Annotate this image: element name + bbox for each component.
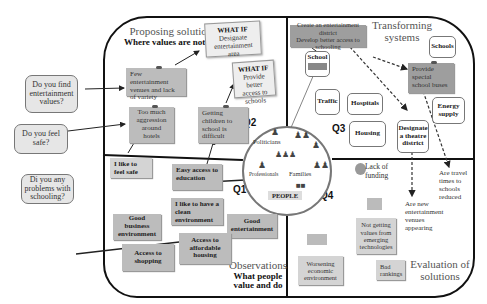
title-transforming-main: Transforming systems bbox=[372, 20, 432, 43]
banner-entertainment-district[interactable]: Create an entertainment district Develop… bbox=[290, 25, 366, 47]
pin-icon bbox=[431, 61, 437, 64]
note-special-school-buses[interactable]: Provide special school buses bbox=[408, 63, 454, 93]
note-easy-access-education[interactable]: Easy access to education bbox=[172, 164, 222, 190]
note-not-getting-values[interactable]: Not getting values from emerging technol… bbox=[356, 218, 396, 254]
title-evaluation-main: Evaluation of solutions bbox=[410, 259, 470, 282]
pin-icon bbox=[156, 66, 162, 69]
question-schooling-problems[interactable]: Di you any problems with schooling? bbox=[21, 174, 74, 204]
technology-image-icon bbox=[367, 198, 382, 210]
eval-new-venues: Are new entertainment venues appearing bbox=[405, 200, 437, 232]
whatif-text: Provide better access to schools bbox=[242, 72, 268, 106]
family-group-icon: ♟♟ bbox=[294, 130, 310, 140]
economy-image-icon bbox=[307, 234, 327, 245]
system-label: School bbox=[308, 54, 328, 62]
note-text: Access to affordable housing bbox=[183, 237, 227, 260]
note-text: Worsening economic environment bbox=[302, 260, 339, 282]
pin-icon bbox=[152, 105, 158, 108]
system-traffic[interactable]: Traffic bbox=[315, 89, 340, 115]
question-feel-safe[interactable]: Do you feel safe? bbox=[14, 124, 68, 154]
banner-line2: Develop better access to schooling bbox=[294, 36, 362, 51]
system-label: Housing bbox=[355, 130, 380, 138]
note-text: Good entertainment bbox=[231, 218, 273, 234]
people-label-professionals: Professionals bbox=[249, 171, 278, 177]
question-entertainment-values[interactable]: Do you find entertainment values? bbox=[25, 75, 78, 113]
question-text: Do you feel safe? bbox=[17, 130, 65, 148]
family-icon: ♟♟ bbox=[313, 160, 329, 170]
note-text: Provide special school buses bbox=[412, 65, 448, 89]
title-evaluation: Evaluation of solutions bbox=[410, 259, 470, 282]
note-text: Getting children to school is difficult bbox=[202, 109, 232, 140]
system-label: Designate a theatre district bbox=[398, 125, 428, 148]
note-text: I like to feel safe bbox=[114, 160, 138, 176]
title-observations-main: Observations bbox=[226, 260, 290, 272]
note-bad-rankings[interactable]: Bad rankings bbox=[376, 260, 405, 280]
note-text: Access to shopping bbox=[126, 250, 170, 266]
politician-icon: ♟ bbox=[271, 127, 279, 137]
question-text: Di you any problems with schooling? bbox=[24, 176, 71, 202]
banner-line1: Create an entertainment district bbox=[294, 21, 362, 36]
people-label-families: Families bbox=[289, 170, 311, 177]
note-text: I like to have a clean environment bbox=[175, 200, 219, 224]
note-text: Bad rankings bbox=[380, 263, 402, 277]
system-schools[interactable]: Schools bbox=[429, 36, 456, 58]
system-energy-supply[interactable]: Energy supply bbox=[432, 97, 465, 124]
whatif-text: Designate entertainment area bbox=[214, 33, 253, 58]
people-label-politicians: Politicians bbox=[253, 138, 280, 145]
note-text: Good business environment bbox=[117, 215, 157, 238]
eval-lack-of-funding: Lack of funding bbox=[365, 163, 393, 180]
note-affordable-housing[interactable]: Access to affordable housing bbox=[179, 233, 231, 264]
note-text: Too much aggression around hotels bbox=[133, 109, 170, 140]
system-label: Energy supply bbox=[433, 103, 464, 118]
note-good-business-environment[interactable]: Good business environment bbox=[113, 214, 161, 240]
note-aggression-hotels[interactable]: Too much aggression around hotels bbox=[129, 107, 174, 143]
professional-icon: ♟ bbox=[258, 160, 266, 170]
note-good-entertainment[interactable]: Good entertainment bbox=[227, 214, 277, 238]
eval-travel-times: Are travel times to schools reduced bbox=[439, 169, 471, 201]
system-theatre-district[interactable]: Designate a theatre district bbox=[397, 120, 429, 153]
note-few-entertainment-venues[interactable]: Few entertainment venues and lack of var… bbox=[126, 68, 186, 96]
whatif-provide-access-schools[interactable]: WHAT IF Provide better access to schools bbox=[232, 60, 276, 99]
people-label: PEOPLE bbox=[268, 191, 302, 200]
system-label: Traffic bbox=[317, 98, 337, 106]
title-observations-sub: What people value and do bbox=[226, 272, 290, 291]
note-access-shopping[interactable]: Access to shopping bbox=[122, 244, 174, 271]
note-worsening-economy[interactable]: Worsening economic environment bbox=[298, 256, 343, 285]
school-image-icon bbox=[308, 63, 327, 70]
system-label: Hospitals bbox=[351, 100, 379, 108]
system-label: Schools bbox=[431, 43, 454, 51]
note-clean-environment[interactable]: I like to have a clean environment bbox=[171, 198, 223, 225]
pin-icon bbox=[223, 105, 229, 108]
person-icon: ♟ bbox=[312, 140, 320, 150]
note-text: Easy access to education bbox=[176, 166, 218, 182]
note-text: Not getting values from emerging technol… bbox=[360, 221, 393, 250]
title-transforming-systems: Transforming systems bbox=[372, 20, 432, 43]
crowd-icon: ♟♟♟ bbox=[275, 150, 296, 159]
note-like-feel-safe[interactable]: I like to feel safe bbox=[110, 158, 152, 178]
system-hospitals[interactable]: Hospitals bbox=[347, 93, 383, 115]
whatif-designate-entertainment[interactable]: WHAT IF Designate entertainment area bbox=[204, 21, 262, 58]
title-observations: Observations What people value and do bbox=[226, 260, 290, 290]
families-group-icon: ■■ bbox=[296, 181, 306, 190]
system-housing[interactable]: Housing bbox=[349, 121, 386, 147]
question-text: Do you find entertainment values? bbox=[28, 81, 75, 107]
note-getting-children-school[interactable]: Getting children to school is difficult bbox=[198, 107, 248, 143]
quadrant-label-q3: Q3 bbox=[332, 123, 345, 134]
